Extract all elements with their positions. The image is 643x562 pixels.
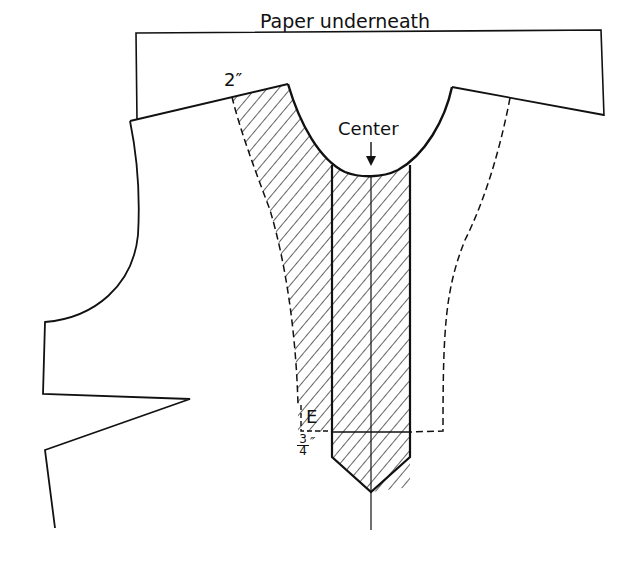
paper-underneath	[136, 30, 604, 120]
point-e-label: E	[306, 406, 317, 427]
extension-measurement-label: 2″	[224, 69, 242, 90]
fraction-denominator: 4	[297, 446, 309, 457]
fraction-label: 3 4	[297, 434, 309, 457]
pattern-drawing	[0, 0, 643, 562]
center-label: Center	[338, 118, 399, 139]
paper-underneath-label: Paper underneath	[260, 10, 430, 32]
fraction-unit: ″	[310, 434, 315, 450]
center-arrow-head	[366, 156, 376, 166]
right-shoulder	[452, 87, 604, 115]
right-dashed-edge	[410, 98, 510, 432]
left-armhole	[43, 121, 190, 528]
